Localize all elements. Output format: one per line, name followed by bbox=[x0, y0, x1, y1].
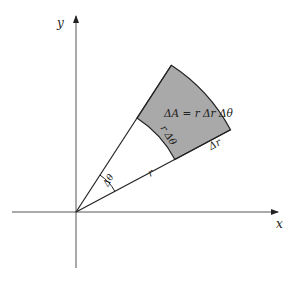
x-axis-label: x bbox=[276, 217, 283, 231]
radius-label: r bbox=[146, 166, 156, 179]
angle-label: Δθ bbox=[101, 172, 116, 189]
diagram-canvas: y x ΔA = r Δr Δθ r Δθ Δr r Δθ bbox=[0, 0, 296, 285]
polar-area-diagram: y x ΔA = r Δr Δθ r Δθ Δr r Δθ bbox=[0, 0, 296, 285]
ray-upper bbox=[76, 65, 171, 212]
y-axis-label: y bbox=[56, 16, 64, 30]
area-formula-label: ΔA = r Δr Δθ bbox=[163, 107, 234, 119]
